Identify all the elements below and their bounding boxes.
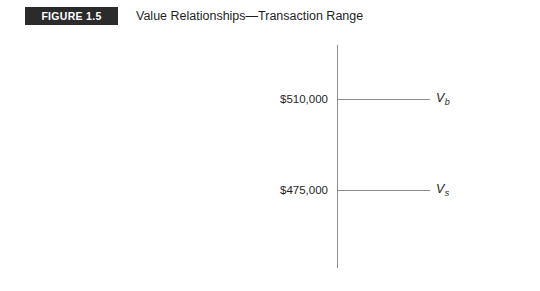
figure-header: FIGURE 1.5 Value Relationships—Transacti… — [0, 0, 540, 32]
tick-label-upper-value: $510,000 — [210, 92, 328, 106]
series-label-vs-symbol: V — [436, 182, 444, 196]
figure-number-badge: FIGURE 1.5 — [25, 7, 118, 25]
series-label-vs: Vs — [436, 182, 449, 197]
figure-number-label: FIGURE 1.5 — [41, 11, 101, 22]
chart-canvas — [0, 32, 540, 291]
series-label-vb-subscript: b — [445, 97, 450, 107]
series-label-vs-subscript: s — [445, 188, 450, 198]
tick-label-lower-value: $475,000 — [210, 183, 328, 197]
series-label-vb: Vb — [436, 91, 449, 106]
chart-plot-area: $510,000 $475,000 Vb Vs — [0, 32, 540, 291]
figure-title: Value Relationships—Transaction Range — [136, 8, 363, 24]
series-label-vb-symbol: V — [436, 91, 444, 105]
